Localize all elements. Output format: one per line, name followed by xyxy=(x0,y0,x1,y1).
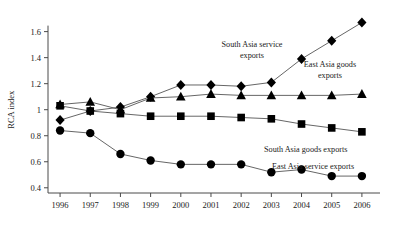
data-point-circle xyxy=(86,129,94,137)
data-point-triangle xyxy=(267,90,277,99)
x-tick-label: 2000 xyxy=(172,200,189,210)
data-point-circle xyxy=(358,172,366,180)
series-annotations: South Asia serviceexportsEast Asia goods… xyxy=(222,40,357,171)
ann-south-asia-service: South Asia serviceexports xyxy=(222,40,283,60)
data-point-circle xyxy=(207,160,215,168)
data-point-diamond xyxy=(237,81,246,91)
data-point-circle xyxy=(328,172,336,180)
x-axis-tick-labels: 1996199719981999200020012002200320042005… xyxy=(52,200,371,210)
data-point-square xyxy=(147,112,155,120)
x-tick-label: 1996 xyxy=(52,200,69,210)
ann-east-asia-goods: East Asia goodsexports xyxy=(304,60,356,80)
y-axis-ticks xyxy=(44,32,48,188)
data-point-triangle xyxy=(327,90,337,99)
series-south-asia-goods-exports xyxy=(56,102,365,136)
y-tick-label: 1 xyxy=(37,105,41,115)
ann-east-asia-service: East Asia service exports xyxy=(272,162,354,171)
y-tick-label: 1.6 xyxy=(30,27,41,37)
data-point-square xyxy=(56,102,64,110)
annotation-line: South Asia goods exports xyxy=(264,145,347,154)
y-tick-label: 0.4 xyxy=(30,183,41,193)
x-tick-label: 2005 xyxy=(323,200,340,210)
annotation-line: exports xyxy=(240,51,264,60)
data-point-triangle xyxy=(297,90,307,99)
data-point-diamond xyxy=(357,18,366,28)
x-tick-label: 1999 xyxy=(142,200,159,210)
ann-south-asia-goods: South Asia goods exports xyxy=(264,145,347,154)
data-point-square xyxy=(117,110,125,118)
rca-index-line-chart: 0.40.60.811.21.41.6 RCA index 1996199719… xyxy=(0,0,401,226)
data-point-triangle xyxy=(85,97,95,106)
x-tick-label: 2004 xyxy=(293,200,311,210)
data-point-circle xyxy=(146,156,154,164)
data-point-square xyxy=(237,114,245,122)
annotation-line: East Asia goods xyxy=(304,60,356,69)
data-point-triangle xyxy=(206,89,216,98)
data-point-circle xyxy=(177,160,185,168)
data-point-square xyxy=(358,128,366,136)
y-tick-label: 0.6 xyxy=(30,157,41,167)
y-axis-tick-labels: 0.40.60.811.21.41.6 xyxy=(30,27,41,193)
data-point-square xyxy=(207,112,215,120)
annotation-line: exports xyxy=(318,71,342,80)
data-point-diamond xyxy=(267,77,276,87)
x-tick-label: 2002 xyxy=(233,200,250,210)
data-point-triangle xyxy=(357,89,367,98)
data-point-diamond xyxy=(327,36,336,46)
data-point-triangle xyxy=(236,90,246,99)
y-tick-label: 1.4 xyxy=(30,53,41,63)
chart-canvas: 0.40.60.811.21.41.6 RCA index 1996199719… xyxy=(0,0,401,226)
annotation-line: East Asia service exports xyxy=(272,162,354,171)
data-point-square xyxy=(86,107,94,115)
annotation-line: South Asia service xyxy=(222,40,283,49)
y-axis-title: RCA index xyxy=(6,90,16,129)
data-point-diamond xyxy=(206,80,215,90)
data-point-circle xyxy=(56,126,64,134)
data-point-square xyxy=(268,115,276,123)
series-layer xyxy=(55,18,366,181)
x-axis-ticks xyxy=(60,193,362,197)
x-tick-label: 1997 xyxy=(82,200,99,210)
data-point-diamond xyxy=(55,115,64,125)
y-axis: 0.40.60.811.21.41.6 RCA index xyxy=(6,26,48,193)
x-tick-label: 2003 xyxy=(263,200,280,210)
data-point-square xyxy=(177,112,185,120)
data-point-square xyxy=(328,124,336,132)
x-tick-label: 2006 xyxy=(353,200,370,210)
data-point-square xyxy=(298,120,306,128)
x-tick-label: 1998 xyxy=(112,200,129,210)
x-axis: 1996199719981999200020012002200320042005… xyxy=(48,193,380,210)
data-point-circle xyxy=(237,160,245,168)
y-tick-label: 1.2 xyxy=(30,79,41,89)
data-point-diamond xyxy=(176,80,185,90)
data-point-circle xyxy=(116,150,124,158)
x-tick-label: 2001 xyxy=(202,200,219,210)
y-tick-label: 0.8 xyxy=(30,131,41,141)
